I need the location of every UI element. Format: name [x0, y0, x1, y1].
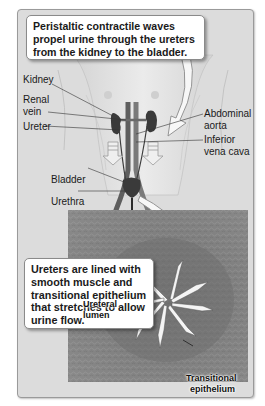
label-ureteral-lumen-line1: Ureteral	[83, 299, 117, 310]
label-bladder: Bladder	[51, 174, 85, 186]
figure-panel: Peristaltic contractile waves propel uri…	[17, 9, 254, 398]
label-renal-vein-line1: Renal	[23, 94, 49, 106]
label-transitional-epithelium-line2: epithelium	[190, 384, 235, 395]
label-abdominal-aorta-line1: Abdominal	[204, 108, 251, 120]
label-transitional-epithelium-line1: Transitional	[186, 373, 237, 384]
label-ureteral-lumen-line2: lumen	[83, 310, 110, 321]
label-abdominal-aorta-line2: aorta	[204, 120, 227, 132]
label-inferior-vena-cava-line2: vena cava	[204, 146, 250, 158]
label-urethra: Urethra	[51, 196, 84, 208]
label-kidney: Kidney	[23, 74, 54, 86]
label-inferior-vena-cava-line1: Inferior	[204, 134, 235, 146]
label-renal-vein-line2: vein	[23, 106, 41, 118]
peristalsis-callout: Peristaltic contractile waves propel uri…	[26, 15, 205, 60]
label-ureter: Ureter	[23, 121, 51, 133]
